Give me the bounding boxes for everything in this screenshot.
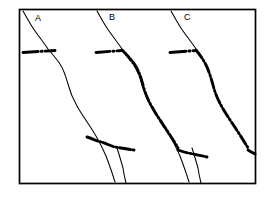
panel-label-b: B xyxy=(109,13,115,22)
figure-frame xyxy=(20,10,256,184)
panel-a-dashdot-upper xyxy=(23,51,55,53)
figure-container: A B C xyxy=(0,0,270,200)
panel-label-c: C xyxy=(184,13,191,22)
figure-svg xyxy=(0,0,270,200)
panel-b-dashdot-upper xyxy=(96,51,122,53)
panel-label-a: A xyxy=(35,14,41,23)
